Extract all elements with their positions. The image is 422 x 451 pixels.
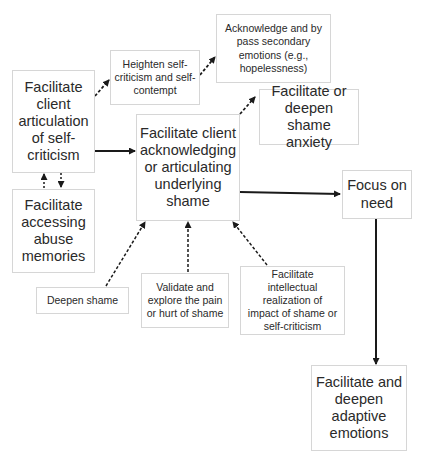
node-heighten: Heighten self-criticism and self-contemp… — [110, 50, 200, 105]
node-underlying-shame-label: Facilitate client acknowledging or artic… — [140, 125, 236, 211]
node-acknowledge-secondary-label: Acknowledge and by pass secondary emotio… — [223, 22, 324, 75]
node-heighten-label: Heighten self-criticism and self-contemp… — [113, 58, 197, 97]
node-focus-need: Focus on need — [342, 170, 412, 219]
arrow-deepen-to-shame — [106, 222, 145, 286]
arrow-heighten-to-acknowledge — [200, 57, 215, 75]
node-intellectual-label: Facilitate intellectual realization of i… — [246, 268, 339, 334]
node-validate: Validate and explore the pain or hurt of… — [141, 273, 229, 328]
node-articulation-label: Facilitate client articulation of self-c… — [15, 79, 92, 165]
node-focus-need-label: Focus on need — [345, 177, 409, 211]
node-shame-anxiety-label: Facilitate or deepen shame anxiety — [266, 83, 352, 151]
node-adaptive: Facilitate and deepen adaptive emotions — [311, 365, 407, 451]
node-abuse-memories-label: Facilitate accessing abuse memories — [15, 197, 92, 265]
node-adaptive-label: Facilitate and deepen adaptive emotions — [314, 374, 404, 442]
arrow-articulation-to-heighten — [95, 80, 109, 96]
arrow-intellectual-to-shame — [233, 222, 267, 265]
node-acknowledge-secondary: Acknowledge and by pass secondary emotio… — [216, 14, 331, 83]
node-shame-anxiety: Facilitate or deepen shame anxiety — [259, 89, 359, 145]
node-articulation: Facilitate client articulation of self-c… — [12, 70, 95, 173]
node-deepen-shame-label: Deepen shame — [47, 294, 118, 307]
arrow-shame-to-anxiety — [240, 97, 255, 114]
node-abuse-memories: Facilitate accessing abuse memories — [12, 189, 95, 273]
node-intellectual: Facilitate intellectual realization of i… — [240, 266, 345, 335]
node-deepen-shame: Deepen shame — [36, 287, 129, 314]
node-validate-label: Validate and explore the pain or hurt of… — [144, 281, 226, 320]
arrow-shame-to-focus — [240, 192, 340, 194]
node-underlying-shame: Facilitate client acknowledging or artic… — [136, 114, 240, 221]
